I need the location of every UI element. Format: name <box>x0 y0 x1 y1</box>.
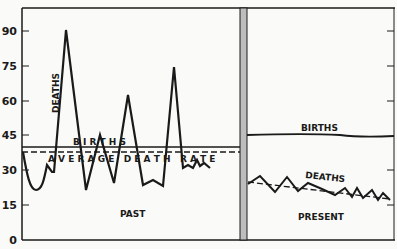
y-tick-label: 15 <box>2 199 17 212</box>
average-death-rate-label: A V E R A G E D E A T H R A T E <box>48 154 215 164</box>
present-births-label: BIRTHS <box>301 123 338 133</box>
chart: 90 75 60 45 30 15 0 DEATHS B I R T H S A… <box>0 0 397 249</box>
y-tick-label: 0 <box>9 234 17 247</box>
panel-separator <box>240 8 247 240</box>
past-births-label: B I R T H S <box>73 137 126 147</box>
past-label: PAST <box>120 209 146 219</box>
y-tick-label: 75 <box>2 60 17 73</box>
y-tick-label: 90 <box>2 25 18 38</box>
past-deaths-label: DEATHS <box>51 73 61 113</box>
y-tick-label: 45 <box>2 129 17 142</box>
present-deaths-label: DEATHS <box>305 170 346 184</box>
present-births-line <box>247 134 394 136</box>
present-label: PRESENT <box>298 212 345 222</box>
y-tick-label: 60 <box>2 95 18 108</box>
y-tick-label: 30 <box>2 164 18 177</box>
